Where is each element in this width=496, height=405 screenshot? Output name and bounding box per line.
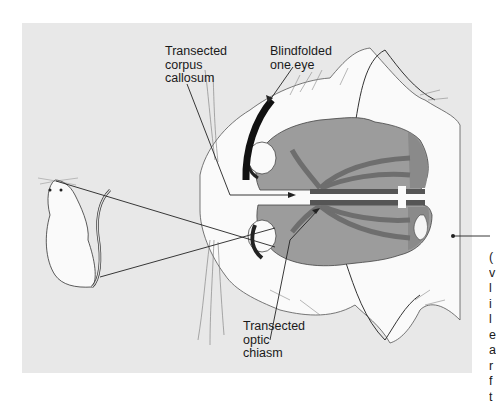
clipped-caption-text: ( v l i l e a r f t bbox=[489, 250, 496, 405]
label-blindfolded-one-eye: Blindfolded one eye bbox=[270, 45, 332, 72]
corpus-callosum-upper bbox=[310, 189, 425, 194]
corpus-callosum-lower bbox=[310, 200, 425, 205]
leader-dot bbox=[451, 234, 455, 238]
label-transected-corpus-callosum: Transected corpus callosum bbox=[165, 45, 227, 86]
callosum-cut bbox=[398, 186, 406, 208]
label-transected-optic-chiasm: Transected optic chiasm bbox=[243, 320, 305, 361]
